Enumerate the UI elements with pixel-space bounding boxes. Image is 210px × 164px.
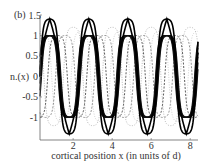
y-tick-label: 1 bbox=[33, 30, 38, 41]
x-tick-label: 8 bbox=[188, 140, 193, 151]
y-tick-label: -1 bbox=[30, 112, 38, 123]
y-axis-label: n.(x) bbox=[10, 71, 29, 83]
panel-label: (b) bbox=[14, 9, 26, 21]
y-tick-label: -0.5 bbox=[22, 91, 38, 102]
chart: 1.510.50-0.5-1 2468 (b) n.(x) cortical p… bbox=[0, 0, 210, 164]
y-tick-label: 0 bbox=[33, 71, 38, 82]
y-tick-label: 1.5 bbox=[29, 10, 42, 21]
plot-curves bbox=[40, 19, 198, 134]
y-tick-label: 0.5 bbox=[26, 50, 39, 61]
x-axis-label: cortical position x (in units of d) bbox=[51, 150, 180, 162]
y-ticks: 1.510.50-0.5-1 bbox=[22, 10, 42, 123]
